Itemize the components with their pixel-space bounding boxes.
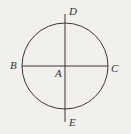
label-point-a: A (55, 68, 62, 79)
label-point-e: E (69, 117, 76, 128)
label-point-d: D (69, 6, 77, 17)
label-point-c: C (111, 63, 118, 74)
label-point-b: B (10, 60, 17, 71)
circle-diagram: D B A C E (0, 0, 131, 134)
